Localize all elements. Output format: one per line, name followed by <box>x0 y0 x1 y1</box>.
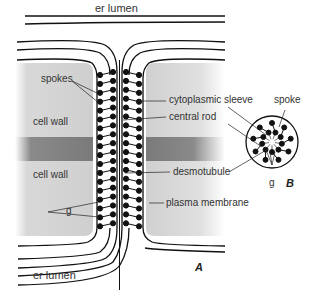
spokes-label: spokes <box>41 74 73 84</box>
g-left-label: g <box>66 206 72 216</box>
er-lumen-bottom-label: er lumen <box>33 270 76 281</box>
plasmodesma-diagram: er lumen spokes cell wall cell wall g cy… <box>0 0 318 307</box>
panel-a-label: A <box>195 261 203 273</box>
desmotubule-label: desmotubule <box>173 167 230 177</box>
cross-section-b <box>246 116 298 168</box>
cytoplasmic-sleeve-label: cytoplasmic sleeve <box>169 95 253 105</box>
plasma-membrane-label: plasma membrane <box>166 198 249 208</box>
cell-wall-top-label: cell wall <box>33 117 68 127</box>
diagram-graphic <box>0 0 318 307</box>
g-right-label: g <box>269 178 275 188</box>
er-lumen-top-label: er lumen <box>95 3 138 14</box>
cell-wall-right <box>146 63 225 236</box>
panel-b-label: B <box>286 177 294 189</box>
cell-wall-bottom-label: cell wall <box>33 170 68 180</box>
spoke-label: spoke <box>274 95 301 105</box>
central-rod-label: central rod <box>169 112 216 122</box>
